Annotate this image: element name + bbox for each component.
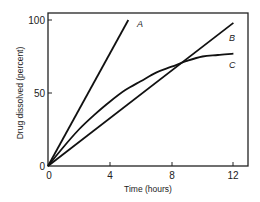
x-tick-label-8: 8 [169,170,175,181]
y-tick-label-50: 50 [34,88,46,99]
series-label-a: A [136,19,143,29]
series-line-a [48,20,128,166]
series-lines [48,20,233,166]
series-line-b [48,23,233,166]
x-tick-label-4: 4 [107,170,113,181]
y-tick-label-100: 100 [28,15,45,26]
series-label-c: C [229,60,236,70]
y-axis-title: Drug dissolved (percent) [15,47,25,140]
x-tick-label-12: 12 [227,170,239,181]
series-label-b: B [229,33,235,43]
dissolution-chart: 100 50 0 Drug dissolved (percent) 0 4 8 … [0,0,260,202]
y-axis: 100 50 0 Drug dissolved (percent) [15,15,52,172]
x-axis-title: Time (hours) [124,184,172,194]
series-line-c [48,54,233,166]
x-axis: 0 4 8 12 Time (hours) [46,162,239,194]
x-tick-label-0: 0 [46,170,52,181]
y-tick-label-0: 0 [39,161,45,172]
